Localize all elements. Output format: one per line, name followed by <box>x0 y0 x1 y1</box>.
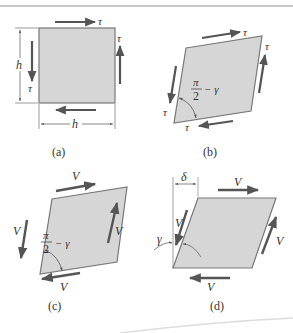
deformed-element <box>40 187 127 274</box>
right-force-label: V <box>276 234 285 248</box>
shear-strain-figure: τ τ τ h h (a) τ τ τ τ π <box>0 0 293 333</box>
width-label: h <box>72 117 78 131</box>
bottom-force-label: V <box>207 280 216 294</box>
angle-numerator: π <box>43 229 49 241</box>
angle-denominator: 2 <box>193 89 199 103</box>
left-force-label: τ <box>163 106 168 118</box>
angle-rest: − γ <box>204 83 219 95</box>
deformed-element <box>174 36 262 123</box>
panel-caption: (d) <box>210 299 224 313</box>
height-label: h <box>16 58 22 72</box>
right-force-label: V <box>115 224 124 238</box>
panel-c: V V V V π 2 − γ (c) <box>13 169 127 313</box>
angle-denominator: 2 <box>43 242 49 256</box>
right-shear-arrow-icon <box>259 55 265 93</box>
page-edge <box>120 318 293 333</box>
gamma-label: γ <box>157 232 162 246</box>
left-force-label: V <box>13 224 22 238</box>
top-force-label: V <box>72 169 81 183</box>
bottom-force-label: V <box>60 280 69 294</box>
bottom-force-label: τ <box>185 121 190 133</box>
panel-caption: (c) <box>48 299 61 313</box>
square-element <box>39 28 115 103</box>
top-force-label: τ <box>98 15 103 27</box>
panel-b: τ τ τ τ π 2 − γ (b) <box>163 26 270 159</box>
top-shear-arrow-icon <box>202 32 240 38</box>
panel-a: τ τ τ h h (a) <box>14 15 122 159</box>
top-force-label: V <box>234 175 243 189</box>
angle-rest: − γ <box>55 237 70 249</box>
bottom-shear-arrow-icon <box>42 273 80 279</box>
right-force-label: τ <box>265 40 270 52</box>
angle-numerator: π <box>193 76 199 88</box>
top-shear-arrow-icon <box>56 184 95 191</box>
left-force-label: τ <box>28 82 33 94</box>
right-force-label: τ <box>117 32 122 44</box>
deformed-element <box>173 198 276 268</box>
left-shear-arrow-icon <box>21 220 27 258</box>
panel-caption: (a) <box>52 145 65 159</box>
left-shear-arrow-icon <box>170 66 176 103</box>
top-force-label: τ <box>243 26 248 38</box>
bottom-shear-arrow-icon <box>199 121 233 126</box>
panel-d: δ V V V V γ (d) <box>154 170 285 313</box>
delta-label: δ <box>181 170 187 184</box>
panel-caption: (b) <box>203 145 217 159</box>
